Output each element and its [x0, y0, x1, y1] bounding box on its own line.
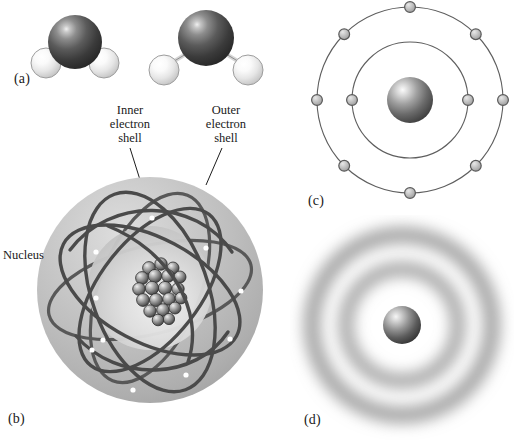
water-molecules-illustration — [0, 0, 300, 100]
panel-c-bohr-model — [300, 0, 514, 215]
hydrogen-atom — [149, 55, 179, 85]
inner-electron-shell-label: Inner electron shell — [92, 103, 168, 145]
electron — [312, 95, 323, 106]
panel-label-a: (a) — [14, 71, 30, 87]
nucleus-sphere — [383, 306, 421, 344]
electron-dot — [203, 245, 208, 250]
electron-dot — [100, 337, 105, 342]
electron — [405, 2, 416, 13]
electron-dot — [227, 336, 232, 341]
oxygen-atom — [178, 10, 234, 66]
electron-dot — [130, 387, 135, 392]
nucleus-label: Nucleus — [3, 248, 63, 262]
atom-models-figure: (a) Inner electron shell Outer electron … — [0, 0, 514, 444]
outer-shell-leader-line — [206, 148, 222, 185]
bohr-model-illustration — [300, 0, 514, 215]
panel-label-b: (b) — [8, 411, 25, 427]
electron — [463, 95, 474, 106]
electron — [339, 160, 350, 171]
electron-dot — [93, 295, 98, 300]
electron-dot — [89, 347, 94, 352]
hydrogen-atom — [233, 55, 263, 85]
panel-b-shell-atom: Inner electron shell Outer electron shel… — [0, 100, 300, 444]
shell-atom-illustration — [0, 100, 300, 444]
panel-label-c: (c) — [308, 193, 324, 209]
panel-d-electron-cloud-model — [290, 215, 514, 444]
panel-a-water-molecules — [0, 0, 300, 100]
space-filling-water-molecule — [31, 15, 119, 78]
electron — [470, 160, 481, 171]
electron-dot — [93, 249, 98, 254]
electron-dot — [183, 372, 188, 377]
electron — [339, 29, 350, 40]
outer-electron-shell-label: Outer electron shell — [188, 103, 264, 145]
electron — [470, 29, 481, 40]
electron-dot — [149, 215, 154, 220]
ball-and-stick-water-molecule — [149, 10, 263, 85]
electron — [347, 95, 358, 106]
electron-dot — [238, 288, 243, 293]
electron-cloud-illustration — [290, 215, 514, 444]
panel-label-d: (d) — [304, 412, 321, 428]
electron — [405, 188, 416, 199]
electron — [498, 95, 509, 106]
nucleus-sphere — [387, 77, 433, 123]
oxygen-atom — [48, 15, 102, 69]
